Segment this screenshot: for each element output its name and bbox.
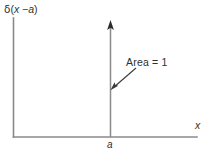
annotation-leader-line xyxy=(114,68,136,87)
annotation-leader-arrowhead xyxy=(110,82,118,90)
x-tick-label-a: a xyxy=(107,140,113,150)
y-label-minus: − xyxy=(19,3,28,15)
x-axis-label: x xyxy=(195,120,200,131)
area-annotation-label: Area = 1 xyxy=(126,57,168,68)
y-axis-label: δ(x −a) xyxy=(4,4,38,15)
delta-function-figure: δ(x −a) Area = 1 x a xyxy=(0,0,217,164)
y-label-close-paren: ) xyxy=(34,3,38,15)
